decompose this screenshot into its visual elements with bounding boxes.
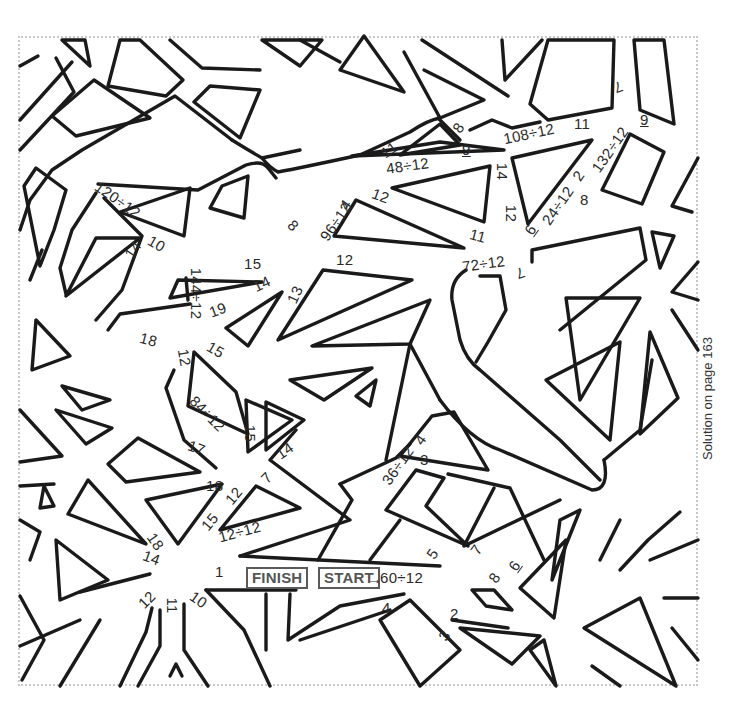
path-label: 9: [462, 142, 471, 157]
path-label: 15: [243, 425, 258, 442]
path-label: 11: [165, 597, 180, 613]
path-label: 3: [420, 452, 429, 467]
path-label: 12: [176, 348, 194, 368]
path-label: 9: [640, 112, 649, 127]
path-label: 8: [580, 192, 589, 207]
path-label: 14: [495, 163, 510, 180]
path-label: 11: [574, 116, 590, 131]
path-label: 144÷12: [189, 268, 204, 320]
path-label: 12: [504, 205, 519, 222]
solution-note: Solution on page 163: [700, 337, 715, 460]
path-label: 4: [382, 600, 391, 615]
path-label: 18: [206, 478, 223, 493]
finish-label: FINISH: [246, 567, 308, 589]
path-label: 15: [244, 256, 261, 271]
maze-walls: [0, 0, 732, 704]
start-expression: 60÷12: [380, 570, 423, 585]
path-label: 2: [450, 606, 459, 621]
path-label: 12: [336, 252, 353, 267]
path-label: 1: [215, 564, 224, 579]
